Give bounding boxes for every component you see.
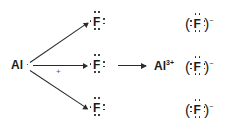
electron-dot: [190, 106, 192, 108]
electron-dot: [90, 106, 92, 108]
electron-transfer-arrow-middle: [33, 65, 87, 66]
electron-dot: [190, 25, 192, 27]
electron-dot: [90, 20, 92, 22]
fluoride-charge-top: −: [209, 17, 213, 24]
electron-dot: [190, 63, 192, 65]
reaction-arrow: [118, 65, 146, 66]
fluorine-atom-middle: F: [93, 59, 101, 71]
fluoride-charge-bottom: −: [209, 103, 213, 110]
lewis-dot-diagram-canvas: + Al F F F Al3+: [0, 0, 234, 126]
electron-dot: [199, 13, 201, 15]
electron-dot: [98, 71, 100, 73]
electron-dot: [98, 54, 100, 56]
fluorine-atom-top: F: [93, 16, 101, 28]
aluminum-atom: Al: [11, 59, 23, 71]
bracket-left: (: [185, 58, 190, 75]
plus-sign: +: [56, 68, 61, 76]
electron-dot: [103, 61, 105, 63]
electron-dot: [199, 56, 201, 58]
electron-dot: [195, 13, 197, 15]
aluminum-symbol: Al: [11, 59, 23, 71]
electron-transfer-arrow-top: [30, 22, 88, 62]
fluoride-symbol-middle: F: [194, 60, 201, 74]
fluoride-core-middle: F: [194, 61, 201, 73]
electron-dot: [94, 97, 96, 99]
aluminum-ion-charge: 3+: [166, 59, 174, 66]
electron-dot: [94, 71, 96, 73]
electron-dot: [98, 28, 100, 30]
fluoride-core-top: F: [194, 18, 201, 30]
fluorine-symbol-bottom: F: [93, 102, 101, 114]
electron-dot: [190, 111, 192, 113]
fluorine-symbol-middle: F: [93, 59, 101, 71]
fluoride-symbol-top: F: [194, 17, 201, 31]
aluminum-ion: Al3+: [154, 59, 174, 72]
electron-dot: [190, 68, 192, 70]
electron-dot: [98, 97, 100, 99]
fluoride-ion-top: ( F )−: [185, 16, 213, 31]
electron-dot: [94, 114, 96, 116]
fluoride-ion-bottom: ( F )−: [185, 102, 213, 117]
electron-dot: [94, 28, 96, 30]
aluminum-valence-dot: [27, 64, 29, 66]
electron-dot: [103, 18, 105, 20]
electron-dot: [103, 104, 105, 106]
electron-dot: [195, 99, 197, 101]
bracket-left: (: [185, 101, 190, 118]
fluoride-symbol-bottom: F: [194, 103, 201, 117]
electron-dot: [103, 23, 105, 25]
fluoride-charge-middle: −: [209, 60, 213, 67]
aluminum-ion-symbol: Al: [154, 59, 166, 73]
bracket-left: (: [185, 15, 190, 32]
fluorine-atom-bottom: F: [93, 102, 101, 114]
electron-dot: [103, 66, 105, 68]
electron-dot: [98, 11, 100, 13]
fluorine-symbol-top: F: [93, 16, 101, 28]
electron-dot: [195, 56, 197, 58]
electron-dot: [199, 99, 201, 101]
fluoride-core-bottom: F: [194, 104, 201, 116]
electron-dot: [103, 109, 105, 111]
electron-dot: [90, 63, 92, 65]
electron-dot: [94, 54, 96, 56]
fluoride-ion-middle: ( F )−: [185, 59, 213, 74]
electron-dot: [94, 11, 96, 13]
electron-dot: [98, 114, 100, 116]
electron-dot: [190, 20, 192, 22]
